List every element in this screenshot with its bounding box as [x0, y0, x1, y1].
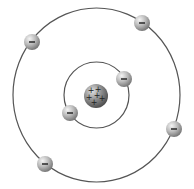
- minus-icon: [171, 128, 177, 130]
- minus-icon: [139, 22, 145, 24]
- proton-plus-icon: +: [91, 98, 98, 107]
- electron: [134, 15, 150, 31]
- atom-diagram: ++++++: [0, 0, 194, 189]
- electron: [116, 71, 132, 87]
- proton-plus-icon: +: [99, 94, 106, 103]
- electron: [166, 121, 182, 137]
- electron: [37, 156, 53, 172]
- electron: [62, 105, 78, 121]
- minus-icon: [42, 163, 48, 165]
- nucleus: ++++++: [84, 84, 108, 108]
- minus-icon: [67, 112, 73, 114]
- electron: [24, 34, 40, 50]
- minus-icon: [121, 78, 127, 80]
- minus-icon: [29, 41, 35, 43]
